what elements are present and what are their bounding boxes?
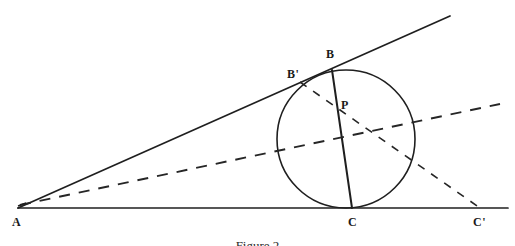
dashed-line-Bprime-P-Cprime — [300, 82, 480, 208]
geometry-diagram — [0, 0, 515, 246]
point-label-c: C — [348, 216, 357, 228]
point-label-b-prime: B' — [287, 68, 299, 80]
figure-container: A B' B P C C' Figure 2 — [0, 0, 515, 246]
point-label-b: B — [326, 48, 335, 60]
point-label-p: P — [341, 99, 349, 111]
dashed-line-A-through-circle — [20, 104, 500, 205]
point-label-a: A — [12, 216, 21, 228]
tangent-line-AB-extended — [18, 16, 450, 208]
point-label-c-prime: C' — [473, 216, 486, 228]
inscribed-circle — [277, 70, 415, 208]
figure-caption: Figure 2 — [0, 238, 515, 246]
